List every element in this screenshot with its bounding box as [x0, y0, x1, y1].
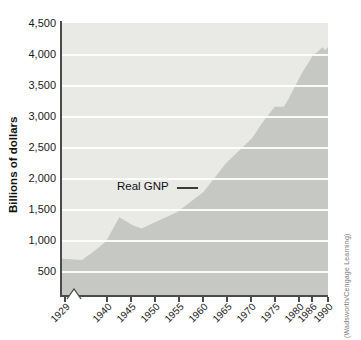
gridline-3000 — [62, 116, 328, 118]
gridline-1000 — [62, 240, 328, 242]
real-gnp-chart: Billions of dollars 4,500 4,000 3,500 3,… — [0, 0, 361, 340]
credit-text: (Wadsworth/Cengage Learning) — [343, 233, 350, 338]
plot-area — [62, 23, 328, 296]
y-axis-line — [60, 21, 62, 297]
y-tick-label: 1,000 — [16, 234, 56, 246]
y-tick-label: 2,000 — [16, 172, 56, 184]
x-axis-line — [60, 295, 328, 297]
gridline-500 — [62, 271, 328, 273]
x-tick-label: 1929 — [37, 301, 72, 336]
y-axis-title: Billions of dollars — [7, 117, 19, 213]
y-tick-label: 500 — [16, 265, 56, 277]
gridline-4000 — [62, 54, 328, 56]
series-label-leader-line — [177, 187, 198, 189]
y-tick-label: 2,500 — [16, 141, 56, 153]
x-axis-break-icon — [66, 288, 82, 301]
area-series-canvas — [62, 23, 328, 296]
gridline-2500 — [62, 147, 328, 149]
series-label: Real GNP — [117, 180, 169, 192]
gridline-2000 — [62, 178, 328, 180]
gridline-1500 — [62, 209, 328, 211]
y-tick-label: 3,500 — [16, 79, 56, 91]
gridline-3500 — [62, 85, 328, 87]
y-tick-label: 3,000 — [16, 110, 56, 122]
y-tick-label: 4,000 — [16, 48, 56, 60]
y-tick-label: 4,500 — [16, 17, 56, 29]
y-tick-label: 1,500 — [16, 203, 56, 215]
